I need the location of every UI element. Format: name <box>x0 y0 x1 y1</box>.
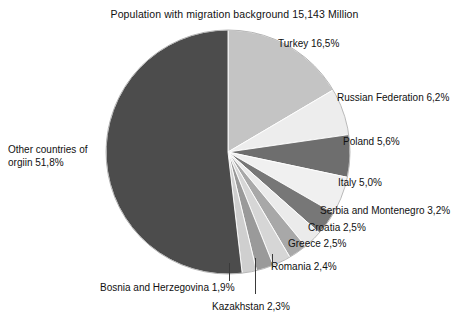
slice-label-italy[interactable]: Italy 5,0% <box>338 176 382 189</box>
slice-label-other-line1: Other countries of <box>8 143 108 156</box>
slice-label-romania[interactable]: Romania 2,4% <box>271 260 337 273</box>
slice-label-other-line2: orgiin 51,8% <box>8 156 108 169</box>
slice-label-turkey[interactable]: Turkey 16,5% <box>278 37 339 50</box>
slice-label-croatia[interactable]: Croatia 2,5% <box>308 221 366 234</box>
slice-label-bosnia-and-herzegovina[interactable]: Bosnia and Herzegovina 1,9% <box>100 281 235 294</box>
slice-label-kazakhstan[interactable]: Kazakhstan 2,3% <box>212 300 290 313</box>
pie-slice-other-countries-of-orgiin[interactable] <box>106 30 242 274</box>
romania-leader <box>272 254 273 268</box>
slice-label-other-countries-of-orgiin[interactable]: Other countries oforgiin 51,8% <box>8 143 108 169</box>
slice-label-poland[interactable]: Poland 5,6% <box>343 135 400 148</box>
pie-chart-figure: Population with migration background 15,… <box>0 0 469 320</box>
kazakhstan-leader <box>255 258 256 294</box>
slice-label-greece[interactable]: Greece 2,5% <box>288 237 346 250</box>
bosnia-leader <box>229 263 230 281</box>
slice-label-serbia-and-montenegro[interactable]: Serbia and Montenegro 3,2% <box>320 204 450 217</box>
slice-label-russian-federation[interactable]: Russian Federation 6,2% <box>337 91 449 104</box>
